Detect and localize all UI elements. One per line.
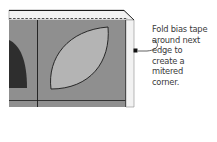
caption-text: Fold bias tape around next edge to creat… bbox=[152, 24, 216, 88]
arrowhead-icon bbox=[134, 49, 138, 53]
caption-line-3: edge to bbox=[152, 45, 216, 56]
caption-line-5: mitered bbox=[152, 66, 216, 77]
caption-line-2: around next bbox=[152, 35, 216, 46]
caption-line-4: create a bbox=[152, 56, 216, 67]
right-bias-tape bbox=[126, 20, 134, 107]
caption-line-6: corner. bbox=[152, 77, 216, 88]
caption-line-1: Fold bias tape bbox=[152, 24, 216, 35]
